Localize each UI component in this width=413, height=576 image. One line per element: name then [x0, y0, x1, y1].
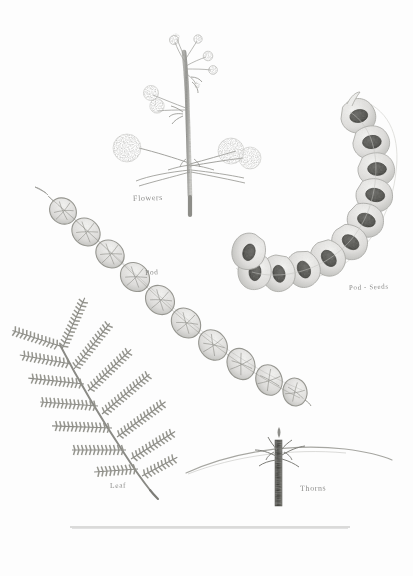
label-pod-seeds: Pod - Seeds [349, 283, 389, 292]
specimen-flowers [113, 33, 261, 215]
specimen-thorns [186, 427, 392, 506]
label-flowers: Flowers [133, 193, 163, 203]
specimen-pod-seeds [228, 92, 397, 295]
label-thorns: Thorns [300, 484, 326, 493]
label-pod: Pod [145, 267, 159, 277]
label-leaf: Leaf [110, 481, 126, 490]
botanical-plate: Flowers Pod Pod - Seeds Leaf Thorns [0, 0, 413, 576]
specimen-leaf [11, 296, 180, 499]
leaf-pinnae [11, 296, 180, 481]
